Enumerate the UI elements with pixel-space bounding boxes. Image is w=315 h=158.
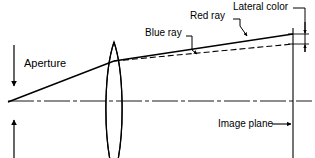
image-plane-label: Image plane [218,119,273,129]
lateral-color-label: Lateral color [233,2,288,12]
diagram-svg [0,0,315,158]
lateral-color-leader [293,8,305,20]
aperture-label: Aperture [24,58,66,69]
optical-diagram-canvas: Aperture Blue ray Red ray Lateral color … [0,0,315,158]
blue-ray-leader [186,36,197,54]
blue-ray-label: Blue ray [145,28,182,38]
blue-ray [114,44,293,61]
red-ray-label: Red ray [190,11,225,21]
red-ray-leader [233,19,247,36]
